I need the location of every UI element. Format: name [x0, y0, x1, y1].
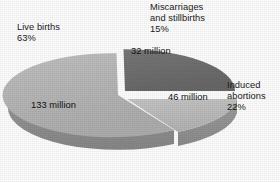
slice-label-live-births: Live births 63% [17, 22, 60, 44]
slice-label-miscarriages: Miscarriages and stillbirths 15% [150, 2, 205, 36]
slice-label-induced-abortions: Induced abortions 22% [227, 80, 266, 114]
slice-value-induced-abortions: 46 million [168, 92, 208, 103]
slice-value-miscarriages: 32 million [131, 46, 171, 57]
pie-chart-figure: Live births 63% Miscarriages and stillbi… [0, 0, 280, 182]
slice-value-live-births: 133 million [31, 100, 76, 111]
